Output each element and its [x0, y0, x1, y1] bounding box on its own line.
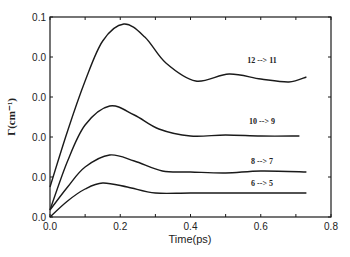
x-tick-label: 0.4: [184, 221, 198, 232]
x-tick-label: 0.6: [254, 221, 268, 232]
x-tick-label: 0.2: [113, 221, 127, 232]
x-tick-label: 0.8: [324, 221, 338, 232]
y-tick-label: 0.0: [32, 132, 46, 143]
series-labels: 12 --> 1110 --> 98 --> 76 --> 5: [247, 56, 276, 188]
y-tick-label: 0.0: [32, 52, 46, 63]
x-axis-title: Time(ps): [169, 233, 212, 245]
y-tick-label: 0.0: [32, 92, 46, 103]
series-label-3: 8 --> 7: [251, 157, 273, 166]
y-tick-label: 0.0: [32, 172, 46, 183]
y-axis-title: Γ(cm⁻¹): [5, 98, 18, 136]
series-curve-4: [50, 183, 306, 217]
y-tick-labels: 0.00.00.00.00.00.1: [32, 12, 46, 223]
y-tick-label: 0.1: [32, 12, 46, 23]
series-label-2: 10 --> 9: [249, 117, 275, 126]
x-tick-labels: 0.00.20.40.60.8: [43, 221, 338, 232]
series-label-1: 12 --> 11: [247, 56, 276, 65]
line-chart: 0.00.20.40.60.8 0.00.00.00.00.00.1 12 --…: [0, 0, 350, 257]
y-tick-label: 0.0: [32, 212, 46, 223]
series-label-4: 6 --> 5: [251, 179, 273, 188]
